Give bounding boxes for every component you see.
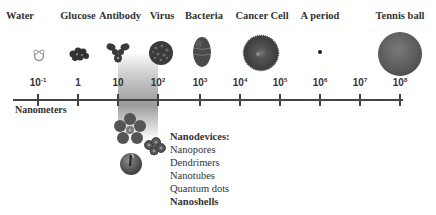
tick-exponent: -1 bbox=[41, 77, 46, 83]
unit-label: Nanometers bbox=[15, 104, 67, 115]
object-label: Bacteria bbox=[185, 10, 223, 21]
tick-mark bbox=[117, 94, 119, 106]
tick-mark bbox=[319, 94, 321, 106]
tick-mark bbox=[359, 94, 361, 106]
nanodevice-item: Nanopores bbox=[170, 143, 230, 156]
tick-mark bbox=[399, 94, 401, 106]
tick-base: 1 bbox=[75, 77, 81, 88]
tick-base: 10 bbox=[393, 77, 404, 88]
tick-mark bbox=[77, 94, 79, 106]
nanodevice-item: Quantum dots bbox=[170, 182, 230, 195]
tick-base: 10 bbox=[30, 77, 41, 88]
object-label: A period bbox=[301, 10, 340, 21]
water-molecule-icon bbox=[32, 48, 46, 62]
tick-exponent: 6 bbox=[324, 77, 327, 83]
tick-label: 108 bbox=[393, 77, 407, 88]
tick-exponent: 5 bbox=[284, 77, 287, 83]
object-label: Glucose bbox=[60, 10, 96, 21]
tick-label: 104 bbox=[233, 77, 247, 88]
object-label: Antibody bbox=[99, 10, 141, 21]
tick-label: 1 bbox=[75, 77, 81, 88]
antibody-icon bbox=[106, 43, 130, 65]
object-label: Tennis ball bbox=[376, 10, 425, 21]
tick-base: 10 bbox=[233, 77, 244, 88]
nanodevices-list: Nanodevices: Nanopores Dendrimers Nanotu… bbox=[170, 130, 230, 208]
tick-base: 10 bbox=[112, 77, 123, 88]
glucose-molecule-icon bbox=[68, 46, 90, 64]
period-dot-icon bbox=[318, 50, 322, 54]
tick-base: 10 bbox=[193, 77, 204, 88]
tick-mark bbox=[279, 94, 281, 106]
nanodevice-item: Nanoshells bbox=[170, 195, 230, 208]
tick-exponent: 7 bbox=[364, 77, 367, 83]
virus-icon bbox=[148, 40, 174, 66]
tick-exponent: 2 bbox=[162, 77, 165, 83]
tick-base: 10 bbox=[151, 77, 162, 88]
tick-label: 10 bbox=[112, 77, 123, 88]
nanoshell-chain-icon bbox=[143, 137, 167, 157]
tick-mark bbox=[239, 94, 241, 106]
tick-mark bbox=[199, 94, 201, 106]
tick-base: 10 bbox=[273, 77, 284, 88]
tick-base: 10 bbox=[313, 77, 324, 88]
object-label: Cancer Cell bbox=[235, 10, 288, 21]
nanodevice-item: Nanotubes bbox=[170, 169, 230, 182]
object-label: Virus bbox=[150, 10, 175, 21]
tick-label: 106 bbox=[313, 77, 327, 88]
tennis-ball-icon bbox=[377, 31, 423, 77]
tick-mark bbox=[157, 94, 159, 106]
dendrimer-flower-icon bbox=[113, 113, 147, 147]
tick-label: 10-1 bbox=[30, 77, 46, 88]
nanodevices-title: Nanodevices: bbox=[170, 130, 230, 143]
bacteria-icon bbox=[192, 36, 212, 68]
tick-exponent: 8 bbox=[404, 77, 407, 83]
tick-label: 103 bbox=[193, 77, 207, 88]
tick-exponent: 4 bbox=[244, 77, 247, 83]
cancer-cell-icon bbox=[242, 34, 280, 72]
scale-axis bbox=[13, 99, 403, 101]
tick-label: 105 bbox=[273, 77, 287, 88]
tick-exponent: 3 bbox=[204, 77, 207, 83]
tick-label: 102 bbox=[151, 77, 165, 88]
tick-label: 107 bbox=[353, 77, 367, 88]
tick-base: 10 bbox=[353, 77, 364, 88]
nanodevice-item: Dendrimers bbox=[170, 156, 230, 169]
object-label: Water bbox=[6, 10, 34, 21]
nanopore-sphere-icon bbox=[119, 152, 143, 176]
